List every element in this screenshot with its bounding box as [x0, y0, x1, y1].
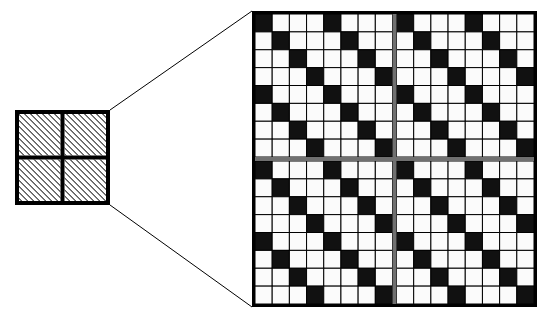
lattice-cell-white[interactable] [375, 179, 392, 197]
lattice-cell-white[interactable] [414, 86, 431, 104]
lattice-cell-white[interactable] [414, 68, 431, 86]
lattice-cell-black[interactable] [255, 233, 272, 251]
lattice-cell-black[interactable] [482, 103, 499, 121]
lattice-cell-white[interactable] [431, 233, 448, 251]
lattice-cell-white[interactable] [289, 179, 306, 197]
lattice-cell-white[interactable] [358, 233, 375, 251]
lattice-cell-white[interactable] [358, 179, 375, 197]
lattice-cell-white[interactable] [358, 215, 375, 233]
lattice-cell-white[interactable] [414, 268, 431, 286]
lattice-cell-white[interactable] [341, 161, 358, 179]
lattice-cell-black[interactable] [341, 32, 358, 50]
lattice-cell-white[interactable] [414, 215, 431, 233]
lattice-cell-white[interactable] [375, 233, 392, 251]
lattice-cell-white[interactable] [465, 215, 482, 233]
lattice-cell-white[interactable] [375, 197, 392, 215]
lattice-cell-white[interactable] [517, 32, 534, 50]
lattice-cell-black[interactable] [431, 50, 448, 68]
lattice-cell-white[interactable] [358, 86, 375, 104]
lattice-cell-white[interactable] [517, 86, 534, 104]
lattice-cell-white[interactable] [341, 86, 358, 104]
lattice-cell-white[interactable] [358, 250, 375, 268]
lattice-cell-white[interactable] [255, 179, 272, 197]
lattice-cell-white[interactable] [255, 250, 272, 268]
lattice-cell-black[interactable] [289, 268, 306, 286]
lattice-cell-black[interactable] [414, 32, 431, 50]
lattice-cell-white[interactable] [431, 14, 448, 32]
lattice-cell-black[interactable] [482, 250, 499, 268]
lattice-cell-white[interactable] [500, 86, 517, 104]
lattice-cell-white[interactable] [397, 250, 414, 268]
lattice-cell-white[interactable] [324, 68, 341, 86]
lattice-cell-white[interactable] [482, 121, 499, 139]
lattice-cell-white[interactable] [517, 197, 534, 215]
lattice-cell-white[interactable] [448, 121, 465, 139]
lattice-cell-white[interactable] [307, 161, 324, 179]
lattice-cell-black[interactable] [341, 103, 358, 121]
lattice-cell-white[interactable] [414, 14, 431, 32]
lattice-cell-white[interactable] [289, 68, 306, 86]
lattice-cell-white[interactable] [500, 233, 517, 251]
lattice-cell-black[interactable] [482, 32, 499, 50]
lattice-cell-black[interactable] [358, 197, 375, 215]
lattice-cell-white[interactable] [431, 286, 448, 304]
lattice-cell-white[interactable] [272, 215, 289, 233]
lattice-cell-white[interactable] [272, 268, 289, 286]
lattice-cell-white[interactable] [324, 197, 341, 215]
lattice-cell-white[interactable] [358, 286, 375, 304]
lattice-cell-white[interactable] [375, 121, 392, 139]
lattice-cell-white[interactable] [397, 215, 414, 233]
lattice-cell-white[interactable] [414, 121, 431, 139]
lattice-cell-white[interactable] [307, 233, 324, 251]
lattice-cell-white[interactable] [448, 161, 465, 179]
lattice-cell-white[interactable] [500, 161, 517, 179]
lattice-cell-white[interactable] [482, 86, 499, 104]
lattice-cell-white[interactable] [324, 32, 341, 50]
lattice-cell-white[interactable] [397, 286, 414, 304]
lattice-cell-white[interactable] [414, 161, 431, 179]
lattice-cell-white[interactable] [375, 250, 392, 268]
lattice-cell-white[interactable] [324, 103, 341, 121]
lattice-cell-white[interactable] [431, 179, 448, 197]
lattice-cell-white[interactable] [255, 215, 272, 233]
lattice-cell-black[interactable] [414, 179, 431, 197]
lattice-cell-black[interactable] [465, 233, 482, 251]
lattice-cell-white[interactable] [482, 50, 499, 68]
lattice-cell-white[interactable] [255, 50, 272, 68]
lattice-cell-white[interactable] [324, 286, 341, 304]
lattice-cell-white[interactable] [341, 68, 358, 86]
lattice-cell-white[interactable] [272, 121, 289, 139]
lattice-cell-white[interactable] [375, 161, 392, 179]
lattice-cell-black[interactable] [465, 161, 482, 179]
lattice-cell-black[interactable] [448, 286, 465, 304]
lattice-cell-white[interactable] [500, 250, 517, 268]
lattice-cell-white[interactable] [289, 139, 306, 157]
lattice-cell-white[interactable] [482, 68, 499, 86]
lattice-cell-black[interactable] [375, 68, 392, 86]
lattice-cell-white[interactable] [375, 32, 392, 50]
lattice-cell-white[interactable] [341, 268, 358, 286]
lattice-cell-white[interactable] [448, 250, 465, 268]
lattice-cell-white[interactable] [397, 68, 414, 86]
lattice-cell-white[interactable] [255, 121, 272, 139]
lattice-cell-white[interactable] [324, 179, 341, 197]
lattice-cell-white[interactable] [500, 286, 517, 304]
lattice-cell-black[interactable] [358, 50, 375, 68]
lattice-cell-white[interactable] [375, 50, 392, 68]
lattice-cell-black[interactable] [517, 139, 534, 157]
lattice-cell-white[interactable] [414, 50, 431, 68]
lattice-cell-white[interactable] [448, 50, 465, 68]
lattice-cell-black[interactable] [500, 268, 517, 286]
lattice-cell-white[interactable] [272, 197, 289, 215]
lattice-cell-white[interactable] [324, 139, 341, 157]
lattice-cell-white[interactable] [358, 14, 375, 32]
lattice-cell-white[interactable] [500, 215, 517, 233]
lattice-cell-black[interactable] [341, 179, 358, 197]
lattice-cell-white[interactable] [448, 268, 465, 286]
source-tile-cell[interactable] [19, 114, 61, 156]
lattice-cell-white[interactable] [465, 50, 482, 68]
lattice-cell-black[interactable] [289, 197, 306, 215]
lattice-cell-white[interactable] [465, 250, 482, 268]
source-tile[interactable] [15, 110, 110, 205]
lattice-cell-white[interactable] [255, 139, 272, 157]
